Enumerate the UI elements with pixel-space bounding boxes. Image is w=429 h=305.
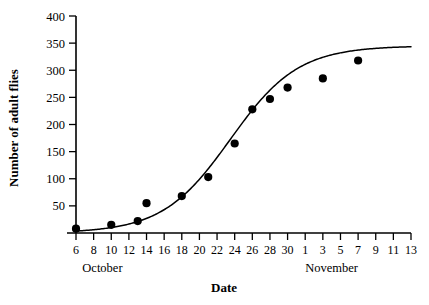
x-tick-label: 8 [91,243,97,257]
data-point [248,105,256,113]
x-tick-labels: 681012141618202224262830135791113 [73,243,417,257]
x-tick-label: 13 [405,243,417,257]
x-tick-label: 20 [193,243,205,257]
data-point [72,225,80,233]
x-tick-label: 18 [176,243,188,257]
y-axis-group: 50100150200250300350400 Number of adult … [6,10,76,234]
x-tick-label: 3 [320,243,326,257]
y-tick-label: 200 [46,118,65,132]
month-label: October [82,261,123,275]
x-tick-label: 22 [211,243,223,257]
y-tick-label: 250 [46,91,65,105]
x-tick-label: 6 [73,243,79,257]
x-tick-label: 26 [246,243,258,257]
x-tick-label: 16 [158,243,170,257]
x-tick-label: 12 [123,243,135,257]
y-tick-label: 150 [46,145,65,159]
month-group-labels: OctoberNovember [82,261,359,275]
data-point [134,217,142,225]
y-tick-label: 350 [46,37,65,51]
data-point-group [72,56,362,232]
x-tick-label: 24 [229,243,241,257]
data-point [107,221,115,229]
data-point [231,139,239,147]
x-tick-label: 10 [105,243,117,257]
x-axis-title: Date [211,280,237,295]
y-tick-marks [69,16,76,206]
x-tick-label: 1 [302,243,308,257]
y-tick-label: 400 [46,10,65,24]
y-axis-title: Number of adult flies [6,69,21,187]
x-tick-marks [76,233,411,240]
data-point [142,199,150,207]
x-tick-label: 7 [355,243,361,257]
data-point [266,95,274,103]
x-tick-label: 9 [373,243,379,257]
y-tick-label: 50 [53,199,66,213]
x-tick-label: 30 [282,243,294,257]
data-point [319,74,327,82]
y-tick-labels: 50100150200250300350400 [46,10,65,214]
chart-figure: 50100150200250300350400 Number of adult … [0,0,429,305]
x-axis-group: 681012141618202224262830135791113 Octobe… [67,233,417,295]
month-label: November [305,261,359,275]
fitted-logistic-curve [76,47,411,231]
scatter-plot-svg: 50100150200250300350400 Number of adult … [0,0,429,305]
x-tick-label: 11 [388,243,400,257]
x-tick-label: 14 [141,243,153,257]
y-tick-label: 100 [46,172,65,186]
data-point [283,84,291,92]
x-tick-label: 28 [264,243,276,257]
data-point [354,56,362,64]
y-tick-label: 300 [46,64,65,78]
data-point [178,192,186,200]
data-point [204,173,212,181]
x-tick-label: 5 [337,243,343,257]
